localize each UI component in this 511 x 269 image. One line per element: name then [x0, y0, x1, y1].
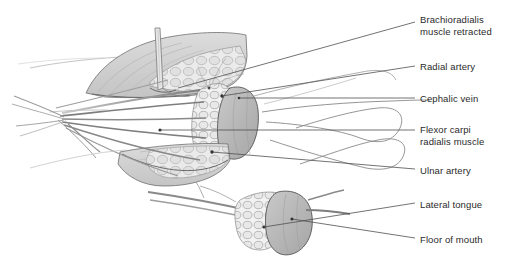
lower-muscle-belly — [118, 143, 230, 186]
label-brachioradialis: Brachioradialis muscle retracted — [420, 14, 492, 37]
label-radial-artery: Radial artery — [420, 61, 475, 73]
label-flexor-carpi-radialis: Flexor carpi radialis muscle — [420, 124, 484, 147]
leader-line-ulnar-artery — [212, 152, 415, 169]
figure-canvas: Brachioradialis muscle retractedRadial a… — [0, 0, 511, 269]
label-ulnar-artery: Ulnar artery — [420, 165, 471, 177]
label-cephalic-vein: Cephalic vein — [420, 93, 478, 105]
label-floor-of-mouth: Floor of mouth — [420, 234, 483, 246]
leader-line-radial-artery — [222, 66, 415, 96]
label-lateral-tongue: Lateral tongue — [420, 199, 482, 211]
